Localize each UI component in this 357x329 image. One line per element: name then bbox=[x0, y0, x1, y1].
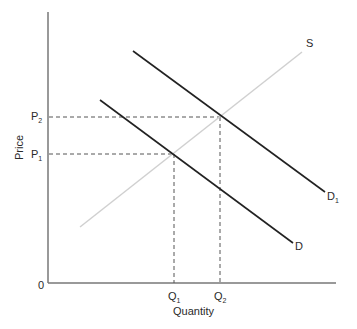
supply-label: S bbox=[306, 38, 313, 49]
y-axis-label: Price bbox=[14, 135, 25, 160]
q1-label: Q1 bbox=[168, 291, 180, 303]
diagram-canvas bbox=[0, 0, 357, 329]
demand-curve-shifted bbox=[133, 51, 325, 192]
demand-label: D bbox=[295, 241, 303, 252]
x-axis-label: Quantity bbox=[173, 306, 214, 317]
guide-lines bbox=[49, 117, 220, 283]
p2-label: P2 bbox=[31, 111, 42, 123]
demand-shifted-label: D1 bbox=[327, 191, 339, 203]
demand-curve bbox=[100, 100, 293, 243]
supply-curve bbox=[80, 52, 302, 227]
p1-label: P1 bbox=[31, 149, 42, 161]
origin-label: 0 bbox=[38, 280, 44, 291]
q2-label: Q2 bbox=[214, 291, 226, 303]
